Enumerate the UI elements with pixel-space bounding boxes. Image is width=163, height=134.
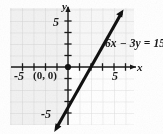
- x-axis-label: x: [137, 62, 143, 73]
- y-tick-label-negative-5: -5: [41, 108, 51, 120]
- y-axis-label: y: [62, 1, 67, 12]
- graph-figure: y x -5 5 5 -5 (0, 0) 6x − 3y = 15: [0, 0, 163, 134]
- x-tick-label-negative-5: -5: [14, 70, 24, 82]
- origin-point-label: (0, 0): [33, 70, 57, 81]
- equation-label: 6x − 3y = 15: [105, 38, 163, 50]
- y-tick-label-positive-5: 5: [53, 16, 59, 28]
- x-tick-label-positive-5: 5: [112, 70, 118, 82]
